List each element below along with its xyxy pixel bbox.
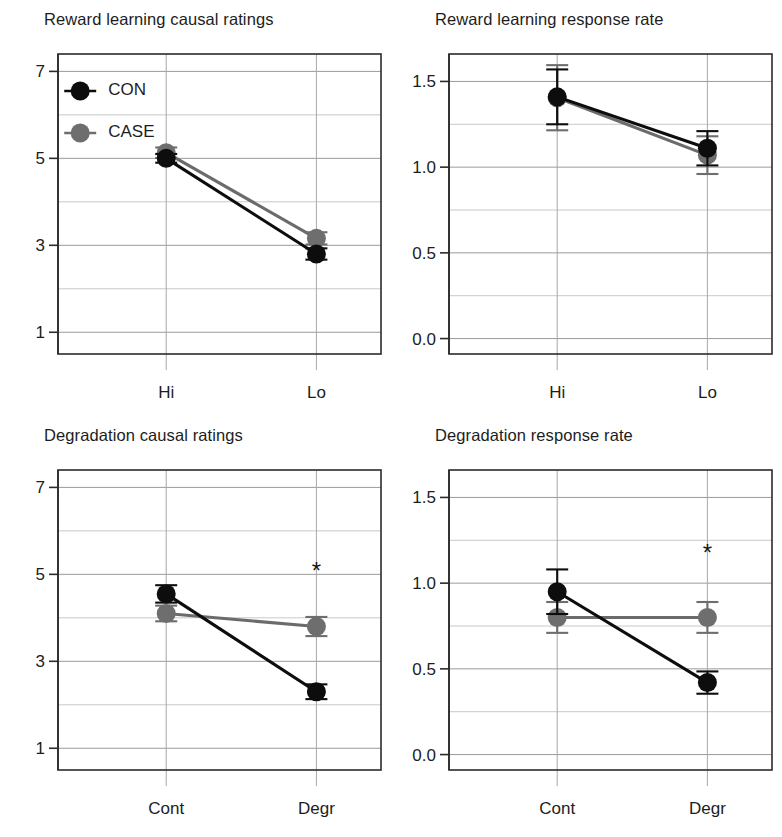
series-line-case xyxy=(166,153,316,239)
x-tick-label: Hi xyxy=(158,383,174,402)
chart-svg-degradation-causal-ratings: 1357ContDegr* xyxy=(0,448,391,837)
data-point-case xyxy=(307,617,326,636)
plot-frame xyxy=(449,470,772,770)
data-point-case xyxy=(157,604,176,623)
data-point-con xyxy=(548,582,567,601)
panel-title: Degradation causal ratings xyxy=(44,426,243,445)
legend-label-con: CON xyxy=(108,80,146,99)
y-tick-label: 7 xyxy=(36,62,45,81)
data-point-con xyxy=(548,87,567,106)
x-tick-label: Degr xyxy=(298,799,335,818)
series-line-case xyxy=(166,613,316,626)
y-tick-label: 1.0 xyxy=(412,574,436,593)
y-tick-label: 1.5 xyxy=(412,72,436,91)
series-line-con xyxy=(166,158,316,254)
series-con xyxy=(546,569,718,693)
y-tick-label: 5 xyxy=(36,565,45,584)
y-tick-label: 1.5 xyxy=(412,488,436,507)
figure-panel-grid: Reward learning causal ratings 1357HiLoC… xyxy=(0,0,782,837)
x-tick-label: Cont xyxy=(148,799,184,818)
series-case xyxy=(546,602,718,633)
series-line-case xyxy=(557,98,707,155)
data-point-con xyxy=(307,245,326,264)
plot-frame xyxy=(58,54,381,354)
y-tick-label: 0.5 xyxy=(412,660,436,679)
y-tick-label: 3 xyxy=(36,236,45,255)
chart-svg-reward-learning-causal-ratings: 1357HiLoCONCASE xyxy=(0,32,391,432)
data-point-con xyxy=(157,584,176,603)
chart-svg-reward-learning-response-rate: 0.00.51.01.5HiLo xyxy=(391,32,782,432)
panel-title: Reward learning response rate xyxy=(435,10,664,29)
y-tick-label: 1 xyxy=(36,323,45,342)
data-point-con xyxy=(307,682,326,701)
panel-title: Degradation response rate xyxy=(435,426,633,445)
y-tick-label: 0.0 xyxy=(412,746,436,765)
data-point-con xyxy=(698,139,717,158)
y-tick-label: 0.0 xyxy=(412,330,436,349)
y-tick-label: 1.0 xyxy=(412,158,436,177)
series-line-con xyxy=(166,594,316,692)
significance-star: * xyxy=(312,557,321,584)
plot-frame xyxy=(449,54,772,354)
series-case xyxy=(155,604,327,636)
data-point-con xyxy=(157,149,176,168)
legend-marker-con xyxy=(71,81,90,100)
panel-degradation-response-rate: Degradation response rate 0.00.51.01.5Co… xyxy=(391,418,782,837)
chart-svg-degradation-response-rate: 0.00.51.01.5ContDegr* xyxy=(391,448,782,837)
x-tick-label: Hi xyxy=(549,383,565,402)
x-tick-label: Cont xyxy=(539,799,575,818)
x-tick-label: Lo xyxy=(698,383,717,402)
panel-reward-learning-causal-ratings: Reward learning causal ratings 1357HiLoC… xyxy=(0,0,391,418)
x-tick-label: Lo xyxy=(307,383,326,402)
series-con xyxy=(155,584,327,701)
legend-label-case: CASE xyxy=(108,122,154,141)
significance-star: * xyxy=(703,539,712,566)
panel-degradation-causal-ratings: Degradation causal ratings 1357ContDegr* xyxy=(0,418,391,837)
y-tick-label: 0.5 xyxy=(412,244,436,263)
series-line-con xyxy=(557,97,707,148)
series-case xyxy=(155,143,327,248)
legend-marker-case xyxy=(71,123,90,142)
panel-reward-learning-response-rate: Reward learning response rate 0.00.51.01… xyxy=(391,0,782,418)
panel-title: Reward learning causal ratings xyxy=(44,10,274,29)
chart-legend: CONCASE xyxy=(64,80,154,142)
plot-frame xyxy=(58,470,381,770)
y-tick-label: 7 xyxy=(36,478,45,497)
data-point-case xyxy=(698,608,717,627)
series-con xyxy=(155,149,327,264)
data-point-con xyxy=(698,673,717,692)
y-tick-label: 1 xyxy=(36,739,45,758)
y-tick-label: 3 xyxy=(36,652,45,671)
y-tick-label: 5 xyxy=(36,149,45,168)
x-tick-label: Degr xyxy=(689,799,726,818)
